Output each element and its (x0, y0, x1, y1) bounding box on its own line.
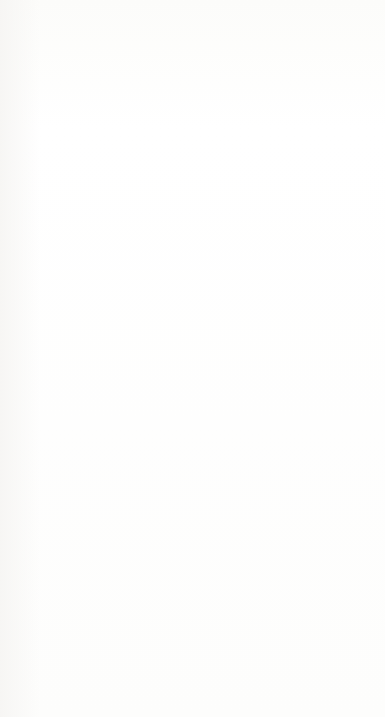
margin-mark (3, 277, 6, 280)
node-label: Arrange for and/or receive a support vis… (47, 173, 88, 250)
arrowhead-into-determine-actions (121, 475, 129, 485)
edge-determine-how-to-contact (196, 413, 198, 425)
node-label: Get support response and/or options. (176, 33, 217, 110)
node-determine-actions[interactable]: Determine what actions to take prior to … (22, 426, 112, 550)
edge-determine-if-to-how (196, 550, 198, 562)
edge-gather-to-contact (126, 348, 148, 350)
margin-mark (3, 690, 7, 694)
node-label: Explain the question or problem. (177, 184, 218, 237)
arrowhead-into-execute-instructions (324, 134, 334, 142)
node-explain-question[interactable]: Explain the question or problem. (152, 148, 242, 274)
node-label: Address future problems. (316, 596, 343, 666)
node-determine-how[interactable]: Determine how to contact support. (152, 426, 242, 550)
node-label: Evaluate support response and/or results… (309, 308, 350, 388)
node-determine-if[interactable]: Determine if support should be contacted… (152, 564, 242, 700)
node-contact-support[interactable]: Contact support. (152, 288, 242, 412)
node-get-support-response[interactable]: Get support response and/or options. (150, 8, 242, 136)
node-address-future[interactable]: Address future problems. (284, 564, 374, 698)
node-label: Contact support. (184, 331, 211, 370)
node-label: Determine what actions to take prior to … (40, 451, 94, 526)
node-evaluate-response[interactable]: Evaluate support response and/or results… (284, 288, 374, 409)
edge-get-response-to-arrange-v (66, 74, 68, 136)
margin-mark (3, 455, 6, 458)
arrowhead-into-arrange-visit (62, 134, 72, 142)
node-label: Execute support instructions. (316, 172, 343, 249)
node-label: Recontact support. (316, 463, 343, 511)
margin-mark (3, 506, 6, 509)
node-execute-instructions[interactable]: Execute support instructions. (284, 148, 374, 274)
node-label: Determine how to contact support. (177, 452, 218, 524)
margin-mark (3, 333, 7, 337)
node-label: Gather necessary support inputs. (47, 315, 88, 385)
edge-get-response-to-execute-h (238, 74, 329, 76)
node-arrange-support-visit[interactable]: Arrange for and/or receive a support vis… (22, 148, 112, 274)
node-label: Determine if support should be contacted… (177, 597, 218, 667)
edge-arrange-to-explain (126, 209, 148, 211)
edge-evaluate-bypass-v (266, 350, 268, 614)
page-edge-shadow (10, 6, 12, 706)
edge-contact-uprail-stub (196, 279, 198, 287)
node-gather-inputs[interactable]: Gather necessary support inputs. (22, 288, 112, 412)
edge-determine-actions-to-gather (66, 413, 68, 425)
edge-get-response-to-execute-v (328, 74, 330, 136)
node-recontact-support[interactable]: Recontact support. (284, 426, 374, 548)
edge-contact-uprail (66, 279, 198, 281)
diagram-canvas: Get support response and/or options. Arr… (0, 0, 385, 717)
